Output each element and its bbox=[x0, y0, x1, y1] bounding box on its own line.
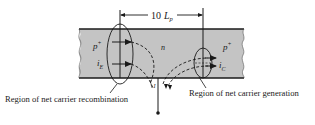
base-arrowhead-right bbox=[168, 85, 172, 90]
base-arrowhead-left bbox=[164, 84, 168, 89]
transistor-diagram: 10Lp p+ n p+ iE iC I bbox=[0, 0, 315, 125]
semiconductor-bar bbox=[79, 29, 244, 78]
base-region-label: n bbox=[161, 43, 165, 52]
recombination-caption: Region of net carrier recombination bbox=[5, 94, 128, 104]
generation-caption: Region of net carrier generation bbox=[189, 88, 299, 98]
recombination-leader bbox=[110, 84, 117, 93]
base-current-label: I bbox=[153, 83, 157, 89]
dimension-label: 10Lp bbox=[151, 10, 174, 23]
base-terminal-dot bbox=[156, 111, 160, 115]
